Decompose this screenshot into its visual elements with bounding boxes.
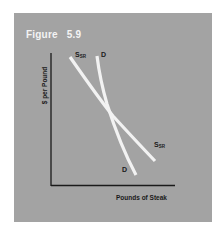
y-axis-label: $ per Pound	[41, 56, 48, 116]
demand-curve	[97, 56, 136, 175]
chart-plot-area	[0, 0, 222, 233]
demand-label-top: D	[101, 51, 106, 58]
demand-label-bottom: D	[122, 166, 127, 173]
supply-label-bottom: SSR	[154, 141, 165, 149]
supply-short-run-curve	[70, 57, 155, 161]
supply-label-top: SSR	[75, 51, 86, 59]
x-axis-label: Pounds of Steak	[116, 194, 167, 201]
